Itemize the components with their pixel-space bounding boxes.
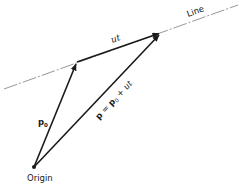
- origin-label: Origin: [27, 173, 53, 183]
- p0-label: p0: [38, 117, 48, 128]
- p0-label-subscript: 0: [44, 122, 48, 128]
- sum-equation-label: p = p0 + ut: [93, 78, 135, 122]
- origin-point: [32, 165, 36, 169]
- vector-p0: [34, 64, 76, 167]
- line-label: Line: [185, 3, 205, 18]
- ut-label: ut: [109, 32, 122, 45]
- vector-diagram: Line ut p0 p = p0 + ut Origin: [0, 0, 241, 189]
